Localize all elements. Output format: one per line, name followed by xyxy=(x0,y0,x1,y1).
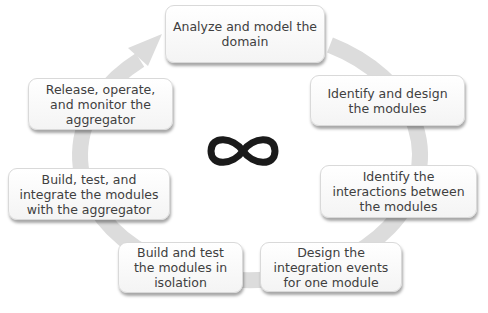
step-release-operate: Release, operate, and monitor the aggreg… xyxy=(28,78,173,130)
infinity-icon xyxy=(203,131,283,171)
step-integrate-aggregator: Build, test, and integrate the modules w… xyxy=(8,168,170,220)
step-design-events: Design the integration events for one mo… xyxy=(260,242,402,292)
step-identify-interactions: Identify the interactions between the mo… xyxy=(320,165,477,218)
step-label: Identify the interactions between the mo… xyxy=(327,169,470,214)
step-analyze: Analyze and model the domain xyxy=(165,5,325,63)
step-label: Design the integration events for one mo… xyxy=(267,245,395,290)
step-label: Release, operate, and monitor the aggreg… xyxy=(35,82,166,127)
step-label: Build and test the modules in isolation xyxy=(125,245,236,290)
step-build-test-isolation: Build and test the modules in isolation xyxy=(118,242,243,293)
step-label: Identify and design the modules xyxy=(317,86,458,116)
step-identify-design: Identify and design the modules xyxy=(310,75,465,126)
step-label: Analyze and model the domain xyxy=(172,19,318,49)
step-label: Build, test, and integrate the modules w… xyxy=(15,172,163,217)
